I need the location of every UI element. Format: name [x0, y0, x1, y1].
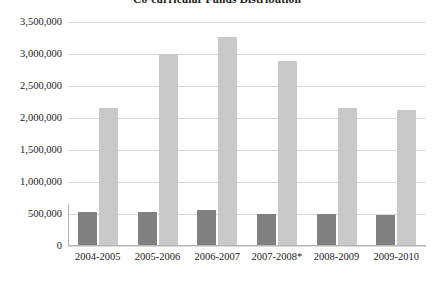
bar-1	[99, 108, 118, 246]
bar-0	[257, 214, 276, 246]
bar-group	[187, 22, 247, 246]
x-axis-line	[68, 245, 426, 246]
y-axis-tick-label: 0	[0, 241, 62, 251]
bar-0	[376, 215, 395, 246]
bar-group	[307, 22, 367, 246]
y-axis-tick-label: 3,000,000	[0, 49, 62, 59]
x-axis-tick-label: 2006-2007	[187, 251, 247, 263]
bar-0	[197, 210, 216, 246]
bar-1	[159, 54, 178, 246]
bar-group	[128, 22, 188, 246]
y-axis-line	[68, 204, 69, 246]
y-axis-labels: 3,500,0003,000,0002,500,0002,000,0001,50…	[0, 22, 62, 246]
x-axis-tick-label: 2004-2005	[68, 251, 128, 263]
gridline	[68, 246, 426, 247]
chart-title: Co-curricular Funds Distribution	[0, 0, 434, 5]
bars-layer	[68, 22, 426, 246]
y-axis-tick-label: 1,000,000	[0, 177, 62, 187]
x-axis-tick-label: 2005-2006	[128, 251, 188, 263]
bar-0	[138, 212, 157, 246]
bar-group	[247, 22, 307, 246]
x-axis-tick-label: 2008-2009	[307, 251, 367, 263]
bar-1	[278, 61, 297, 246]
plot-area	[68, 22, 426, 246]
bar-group	[366, 22, 426, 246]
y-axis-tick-label: 2,500,000	[0, 81, 62, 91]
chart-container: Co-curricular Funds Distribution 3,500,0…	[0, 0, 434, 283]
y-axis-tick-label: 2,000,000	[0, 113, 62, 123]
y-axis-tick-label: 1,500,000	[0, 145, 62, 155]
bar-group	[68, 22, 128, 246]
x-axis-tick-label: 2007-2008*	[247, 251, 307, 263]
bar-1	[338, 108, 357, 246]
bar-1	[218, 37, 237, 246]
x-axis-labels: 2004-20052005-20062006-20072007-2008*200…	[68, 251, 426, 263]
y-axis-tick-label: 500,000	[0, 209, 62, 219]
bar-0	[317, 214, 336, 246]
x-axis-tick-label: 2009-2010	[366, 251, 426, 263]
y-axis-tick-label: 3,500,000	[0, 17, 62, 27]
bar-0	[78, 212, 97, 246]
bar-1	[397, 110, 416, 246]
